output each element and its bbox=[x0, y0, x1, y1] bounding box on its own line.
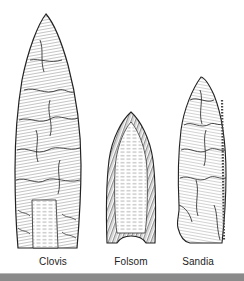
clovis-point bbox=[15, 14, 81, 248]
clovis-label: Clovis bbox=[23, 256, 83, 267]
folsom-label: Folsom bbox=[101, 256, 161, 267]
folsom-point bbox=[106, 112, 155, 243]
illustration bbox=[0, 0, 244, 281]
sandia-label: Sandia bbox=[168, 256, 228, 267]
sandia-point bbox=[177, 77, 226, 243]
bottom-bar bbox=[0, 274, 244, 281]
